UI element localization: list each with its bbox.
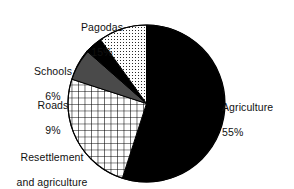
pie-label-agriculture-name: Agriculture: [222, 101, 294, 114]
pie-label-schools-name: Schools: [16, 65, 90, 78]
pie-label-resettlement-line1: Resettlement: [0, 151, 104, 164]
pie-label-resettlement: Resettlement and agriculture 15%: [0, 138, 104, 189]
pie-label-agriculture-percent: 55%: [222, 126, 294, 139]
pie-chart-figure: Pagodas 15% Schools 6% Roads 9% Resettle…: [0, 0, 294, 189]
pie-label-agriculture: Agriculture 55%: [222, 88, 294, 151]
pie-label-resettlement-line2: and agriculture: [0, 176, 104, 189]
pie-label-pagodas-name: Pagodas: [60, 21, 144, 34]
pie-label-roads-name: Roads: [16, 99, 90, 112]
pie-label-roads-percent: 9%: [16, 124, 90, 137]
